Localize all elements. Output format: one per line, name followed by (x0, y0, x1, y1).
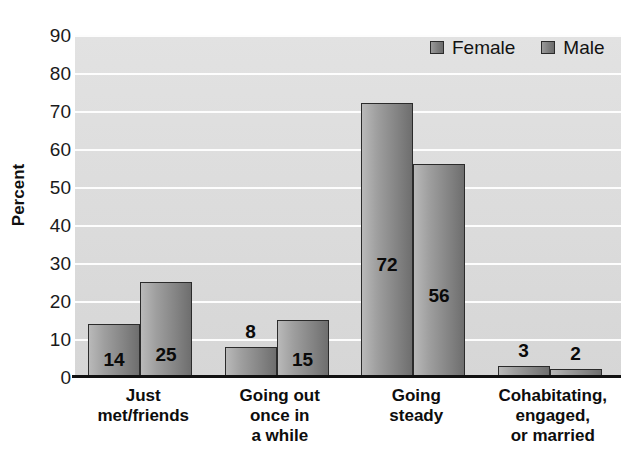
y-axis-title-text: Percent (9, 164, 29, 226)
category-label-line: Going out (212, 386, 349, 406)
bar-value-label: 2 (550, 344, 602, 363)
bar-chart: Percent 0102030405060708090 142581572563… (0, 0, 640, 466)
bar-male[interactable] (413, 164, 465, 377)
legend-swatch-icon (541, 41, 555, 54)
bar-female[interactable] (361, 103, 413, 377)
x-axis-line (72, 375, 621, 378)
bar-value-label: 14 (88, 350, 140, 369)
bar-value-label: 25 (140, 345, 192, 364)
y-axis-tick-label: 90 (50, 26, 71, 45)
y-axis-tick-label: 20 (50, 292, 71, 311)
y-axis-tick-label: 30 (50, 254, 71, 273)
x-axis-category-label: Going outonce ina while (212, 384, 349, 464)
category-label-line: steady (348, 406, 485, 426)
bar-group: 1425 (75, 35, 212, 377)
bar-group: 32 (485, 35, 622, 377)
bar-value-label: 8 (225, 322, 277, 341)
plot-area: 1425815725632 (75, 35, 621, 377)
category-label-line: Cohabitating, (485, 386, 622, 406)
bar-group: 7256 (348, 35, 485, 377)
bar-group: 815 (212, 35, 349, 377)
bar-value-label: 72 (361, 255, 413, 274)
category-label-line: Going (348, 386, 485, 406)
y-axis-tick-label: 40 (50, 216, 71, 235)
category-label-line: engaged, (485, 406, 622, 426)
category-label-line: Just (75, 386, 212, 406)
legend-item-male[interactable]: Male (541, 38, 604, 57)
y-axis-tick-label: 70 (50, 102, 71, 121)
legend-label-male: Male (563, 38, 604, 57)
legend-label-female: Female (452, 38, 515, 57)
y-axis-tick-label: 50 (50, 178, 71, 197)
legend-swatch-icon (430, 41, 444, 54)
y-axis-tick-label: 80 (50, 64, 71, 83)
y-axis-tick-label: 10 (50, 330, 71, 349)
y-axis-tick-label: 0 (60, 368, 71, 387)
y-axis-tick-label: 60 (50, 140, 71, 159)
bar-value-label: 3 (498, 341, 550, 360)
category-label-line: met/friends (75, 406, 212, 426)
x-axis-category-label: Justmet/friends (75, 384, 212, 464)
category-label-line: a while (212, 426, 349, 446)
bar-value-label: 15 (277, 350, 329, 369)
x-axis-category-labels: Justmet/friendsGoing outonce ina whileGo… (75, 384, 621, 464)
bar-value-label: 56 (413, 286, 465, 305)
category-label-line: once in (212, 406, 349, 426)
bar-female[interactable] (225, 347, 277, 377)
bar-groups: 1425815725632 (75, 35, 621, 377)
legend: Female Male (430, 38, 605, 57)
x-axis-category-label: Goingsteady (348, 384, 485, 464)
x-axis-category-label: Cohabitating,engaged,or married (485, 384, 622, 464)
legend-item-female[interactable]: Female (430, 38, 515, 57)
category-label-line: or married (485, 426, 622, 446)
y-axis-tick-labels: 0102030405060708090 (30, 35, 74, 377)
